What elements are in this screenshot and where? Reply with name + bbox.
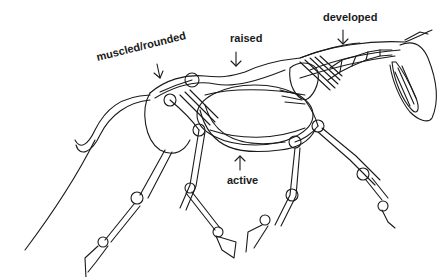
head [390,32,436,121]
arrow-developed [338,30,348,44]
label-raised: raised [230,33,262,44]
arrow-muscled [154,64,163,78]
arrow-active [235,156,245,170]
front-leg-far [246,148,300,252]
hind-leg-near [85,150,172,277]
hind-leg-far [180,130,236,258]
spine [300,50,392,90]
horse-anatomy-diagram: muscled/rounded raised developed active [0,0,447,277]
label-active: active [227,175,258,186]
front-leg-near [318,128,395,228]
shoulder [280,63,324,148]
pelvis [160,73,218,136]
tail [25,95,150,250]
arrow-raised [231,52,241,66]
label-developed: developed [323,12,377,23]
horse-drawing [0,0,447,277]
